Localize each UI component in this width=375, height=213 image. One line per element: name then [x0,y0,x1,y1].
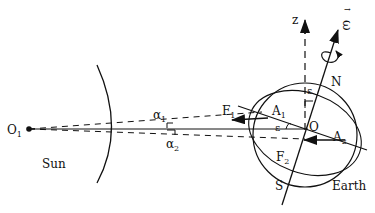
alpha1-marker [167,123,173,128]
label-omega: ω [340,20,355,31]
rotation-axis-omega [282,30,338,205]
right-angle-mark [305,101,313,108]
force-f1-arrow-icon [232,118,268,120]
label-south: S [275,179,283,193]
label-earth-center: O [309,120,319,134]
label-force2: F2 [276,150,289,166]
label-point-a2: A2 [332,130,347,146]
equatorial-plane-line [238,106,367,150]
label-north: N [331,75,342,89]
label-epsilon-top: ε [307,85,312,96]
label-alpha2: α2 [166,137,179,153]
label-sun-center: O1 [7,123,22,139]
label-earth: Earth [332,179,366,193]
label-force1: F1 [222,104,235,120]
label-sun: Sun [42,157,66,171]
label-alpha1: α1 [153,108,166,124]
label-point-a1: A1 [271,104,286,120]
precession-diagram: O1 Sun α1 α2 F1 F2 A1 A2 O N S Earth z ω… [0,0,375,213]
label-z-axis: z [292,13,298,27]
label-epsilon-side: ε [275,122,280,133]
label-omega-vector-mark: → [344,5,351,14]
diagram-canvas: O1 Sun α1 α2 F1 F2 A1 A2 O N S Earth z ω… [0,0,375,213]
